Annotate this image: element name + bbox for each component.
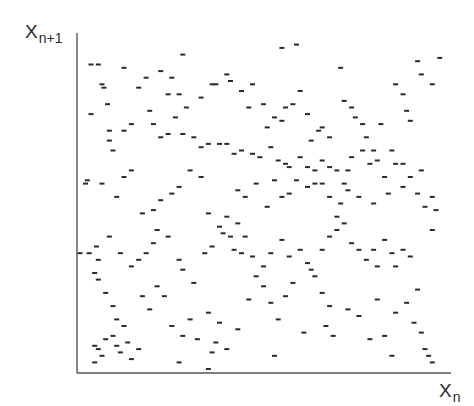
data-point <box>360 150 365 152</box>
data-point <box>353 116 358 118</box>
data-point <box>118 252 123 254</box>
data-point <box>239 90 244 92</box>
data-point <box>298 249 303 251</box>
data-point <box>268 146 273 148</box>
data-point <box>180 335 185 337</box>
data-point <box>375 299 380 301</box>
data-point <box>180 133 185 135</box>
data-point <box>265 126 270 128</box>
data-point <box>261 285 266 287</box>
data-point <box>221 232 226 234</box>
data-point <box>283 107 288 109</box>
data-point <box>415 289 420 291</box>
data-point <box>85 179 90 181</box>
data-point <box>356 315 361 317</box>
data-point <box>243 196 248 198</box>
data-point <box>250 256 255 258</box>
data-point <box>331 335 336 337</box>
data-point <box>136 259 141 261</box>
data-point <box>103 338 108 340</box>
data-point <box>177 186 182 188</box>
data-point <box>342 222 347 224</box>
data-point <box>250 153 255 155</box>
data-point <box>254 275 259 277</box>
data-point <box>283 163 288 165</box>
data-point <box>87 252 92 254</box>
data-point <box>301 332 306 334</box>
data-point <box>195 338 200 340</box>
data-point <box>144 77 149 79</box>
y-axis-label-main: X <box>25 21 38 42</box>
data-point <box>261 103 266 105</box>
data-point <box>111 335 116 337</box>
data-point <box>177 93 182 95</box>
data-point <box>144 252 149 254</box>
data-point <box>298 90 303 92</box>
data-point <box>169 325 174 327</box>
data-point <box>356 249 361 251</box>
data-point <box>151 123 156 125</box>
y-axis-label-subscript: n+1 <box>39 30 63 46</box>
data-point <box>224 216 229 218</box>
data-point <box>279 47 284 49</box>
data-point <box>92 272 97 274</box>
data-point <box>235 189 240 191</box>
data-point <box>169 193 174 195</box>
data-point <box>312 169 317 171</box>
y-axis-label: Xn+1 <box>25 22 62 41</box>
data-point <box>184 107 189 109</box>
data-point <box>107 236 112 238</box>
data-point <box>191 282 196 284</box>
data-point <box>235 328 240 330</box>
data-point <box>158 70 163 72</box>
data-point <box>371 249 376 251</box>
data-point <box>114 345 119 347</box>
data-point <box>199 146 204 148</box>
data-point <box>180 269 185 271</box>
data-point <box>327 136 332 138</box>
data-point <box>261 265 266 267</box>
data-point <box>320 160 325 162</box>
data-point <box>430 361 435 363</box>
data-point <box>235 222 240 224</box>
data-point <box>423 348 428 350</box>
data-point <box>166 236 171 238</box>
data-point <box>404 302 409 304</box>
data-point <box>158 199 163 201</box>
data-point <box>342 100 347 102</box>
scatter-plot <box>0 0 474 406</box>
data-point <box>415 60 420 62</box>
data-point <box>257 156 262 158</box>
data-point <box>228 80 233 82</box>
data-point <box>279 120 284 122</box>
data-point <box>393 265 398 267</box>
data-point <box>342 183 347 185</box>
data-point <box>279 239 284 241</box>
data-point <box>206 368 211 370</box>
data-point <box>177 259 182 261</box>
data-point <box>389 355 394 357</box>
data-point <box>364 259 369 261</box>
data-point <box>327 305 332 307</box>
data-point <box>96 64 101 66</box>
data-point <box>408 120 413 122</box>
data-point <box>96 279 101 281</box>
data-point <box>217 226 222 228</box>
data-point <box>408 176 413 178</box>
data-point <box>213 342 218 344</box>
data-point <box>349 107 354 109</box>
data-point <box>419 332 424 334</box>
data-point <box>371 150 376 152</box>
data-point <box>217 143 222 145</box>
data-point <box>312 275 317 277</box>
data-point <box>393 83 398 85</box>
data-point <box>78 252 83 254</box>
data-point <box>111 305 116 307</box>
data-point <box>272 355 277 357</box>
data-point <box>122 67 127 69</box>
data-point <box>408 256 413 258</box>
data-point <box>155 229 160 231</box>
data-point <box>320 183 325 185</box>
data-point <box>239 150 244 152</box>
data-point <box>199 97 204 99</box>
